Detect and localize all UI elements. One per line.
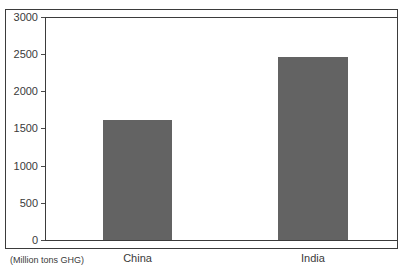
y-tick-mark: [41, 166, 45, 167]
y-tick-label-0: 0: [32, 235, 38, 246]
axis-unit-note: (Million tons GHG): [10, 255, 84, 265]
plot-top-rule: [45, 17, 398, 18]
y-tick-label-500: 500: [20, 198, 38, 209]
bar-china: [103, 120, 172, 240]
bar-chart-figure: 3000 2500 2000 1500 1000 500 0 China Ind…: [0, 0, 419, 277]
y-tick-label-3000: 3000: [14, 12, 38, 23]
x-axis-line: [45, 240, 398, 241]
y-tick-mark: [41, 91, 45, 92]
x-category-label-india: India: [278, 252, 348, 264]
y-axis-line: [45, 17, 46, 241]
y-tick-label-1500: 1500: [14, 123, 38, 134]
y-tick-mark: [41, 54, 45, 55]
y-tick-label-2500: 2500: [14, 49, 38, 60]
y-tick-mark: [41, 203, 45, 204]
y-tick-label-2000: 2000: [14, 86, 38, 97]
x-category-label-china: China: [103, 252, 172, 264]
y-tick-mark: [41, 240, 45, 241]
bar-india: [278, 57, 348, 240]
y-tick-mark: [41, 128, 45, 129]
y-tick-mark: [41, 17, 45, 18]
y-tick-label-1000: 1000: [14, 161, 38, 172]
